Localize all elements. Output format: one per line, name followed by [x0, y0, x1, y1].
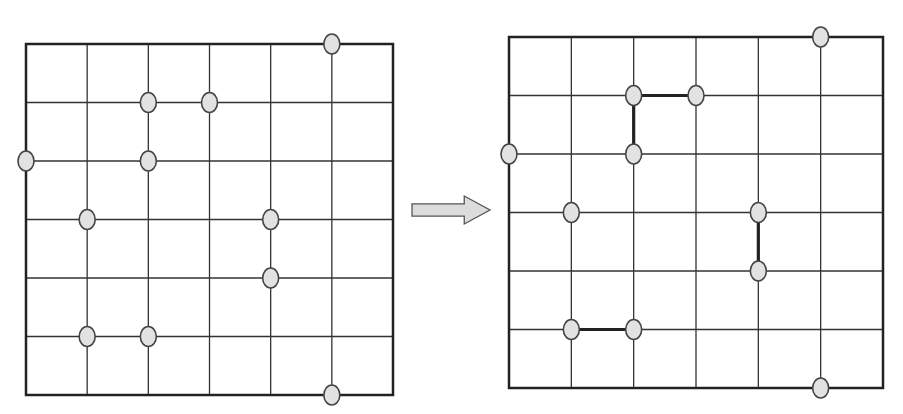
right-arrow-icon — [412, 196, 490, 224]
grid-node — [688, 86, 704, 106]
grid-node — [563, 203, 579, 223]
grid-node — [18, 151, 34, 171]
grid-node — [813, 378, 829, 398]
grid-node — [263, 210, 279, 230]
grid-node — [626, 86, 642, 106]
grid-node — [140, 151, 156, 171]
grid-node — [324, 34, 340, 54]
left-grid — [18, 34, 393, 405]
grid-node — [79, 327, 95, 347]
grid-node — [79, 210, 95, 230]
grid-node — [563, 320, 579, 340]
grid-node — [324, 385, 340, 405]
grid-transformation-diagram — [0, 0, 903, 414]
right-grid — [501, 27, 883, 398]
grid-node — [750, 203, 766, 223]
arrow-shape — [412, 196, 490, 224]
grid-node — [750, 261, 766, 281]
grid-node — [140, 327, 156, 347]
grid-node — [263, 268, 279, 288]
grid-node — [501, 144, 517, 164]
grid-node — [140, 93, 156, 113]
grid-node — [202, 93, 218, 113]
grid-node — [626, 320, 642, 340]
grid-node — [626, 144, 642, 164]
grid-node — [813, 27, 829, 47]
